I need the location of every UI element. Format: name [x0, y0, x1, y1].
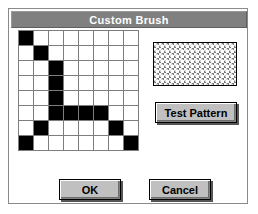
brush-cell-5-0[interactable]: [19, 106, 33, 120]
brush-cell-4-3[interactable]: [64, 91, 78, 105]
brush-cell-1-5[interactable]: [94, 46, 108, 60]
brush-cell-3-3[interactable]: [64, 76, 78, 90]
brush-cell-3-7[interactable]: [124, 76, 138, 90]
cancel-button[interactable]: Cancel: [149, 179, 211, 200]
brush-cell-1-0[interactable]: [19, 46, 33, 60]
brush-cell-1-7[interactable]: [124, 46, 138, 60]
brush-cell-2-6[interactable]: [109, 61, 123, 75]
brush-cell-3-5[interactable]: [94, 76, 108, 90]
brush-cell-2-3[interactable]: [64, 61, 78, 75]
brush-cell-4-4[interactable]: [79, 91, 93, 105]
brush-cell-0-6[interactable]: [109, 31, 123, 45]
pattern-preview: [153, 42, 237, 86]
brush-cell-2-4[interactable]: [79, 61, 93, 75]
brush-cell-1-6[interactable]: [109, 46, 123, 60]
brush-cell-7-6[interactable]: [109, 136, 123, 150]
brush-cell-7-7[interactable]: [124, 136, 138, 150]
brush-cell-6-7[interactable]: [124, 121, 138, 135]
brush-cell-3-1[interactable]: [34, 76, 48, 90]
brush-cell-5-4[interactable]: [79, 106, 93, 120]
ok-button[interactable]: OK: [59, 179, 121, 200]
brush-cell-4-2[interactable]: [49, 91, 63, 105]
brush-cell-5-5[interactable]: [94, 106, 108, 120]
dialog-title: Custom Brush: [89, 14, 168, 26]
brush-cell-1-3[interactable]: [64, 46, 78, 60]
brush-cell-6-1[interactable]: [34, 121, 48, 135]
brush-cell-3-2[interactable]: [49, 76, 63, 90]
brush-cell-2-5[interactable]: [94, 61, 108, 75]
brush-cell-0-3[interactable]: [64, 31, 78, 45]
brush-cell-0-4[interactable]: [79, 31, 93, 45]
brush-cell-1-2[interactable]: [49, 46, 63, 60]
brush-cell-7-5[interactable]: [94, 136, 108, 150]
brush-cell-3-4[interactable]: [79, 76, 93, 90]
custom-brush-dialog: Custom Brush Test Pattern OK Cancel: [8, 8, 248, 204]
brush-cell-5-3[interactable]: [64, 106, 78, 120]
brush-cell-2-0[interactable]: [19, 61, 33, 75]
brush-cell-6-2[interactable]: [49, 121, 63, 135]
brush-cell-4-0[interactable]: [19, 91, 33, 105]
brush-cell-6-3[interactable]: [64, 121, 78, 135]
brush-cell-5-6[interactable]: [109, 106, 123, 120]
brush-cell-4-7[interactable]: [124, 91, 138, 105]
brush-cell-1-1[interactable]: [34, 46, 48, 60]
brush-cell-4-1[interactable]: [34, 91, 48, 105]
brush-cell-4-6[interactable]: [109, 91, 123, 105]
brush-cell-0-2[interactable]: [49, 31, 63, 45]
brush-cell-5-2[interactable]: [49, 106, 63, 120]
brush-cell-0-7[interactable]: [124, 31, 138, 45]
brush-cell-2-1[interactable]: [34, 61, 48, 75]
brush-cell-7-3[interactable]: [64, 136, 78, 150]
dialog-titlebar[interactable]: Custom Brush: [11, 11, 247, 28]
brush-cell-6-0[interactable]: [19, 121, 33, 135]
brush-grid[interactable]: [18, 30, 139, 151]
brush-cell-4-5[interactable]: [94, 91, 108, 105]
brush-cell-6-6[interactable]: [109, 121, 123, 135]
brush-cell-3-0[interactable]: [19, 76, 33, 90]
brush-cell-1-4[interactable]: [79, 46, 93, 60]
brush-cell-6-4[interactable]: [79, 121, 93, 135]
brush-cell-0-5[interactable]: [94, 31, 108, 45]
brush-cell-0-0[interactable]: [19, 31, 33, 45]
test-pattern-button[interactable]: Test Pattern: [155, 102, 237, 123]
brush-cell-6-5[interactable]: [94, 121, 108, 135]
brush-cell-2-7[interactable]: [124, 61, 138, 75]
brush-cell-5-7[interactable]: [124, 106, 138, 120]
brush-cell-7-4[interactable]: [79, 136, 93, 150]
brush-cell-7-0[interactable]: [19, 136, 33, 150]
brush-cell-3-6[interactable]: [109, 76, 123, 90]
brush-cell-7-2[interactable]: [49, 136, 63, 150]
brush-cell-2-2[interactable]: [49, 61, 63, 75]
brush-cell-0-1[interactable]: [34, 31, 48, 45]
brush-cell-5-1[interactable]: [34, 106, 48, 120]
brush-cell-7-1[interactable]: [34, 136, 48, 150]
